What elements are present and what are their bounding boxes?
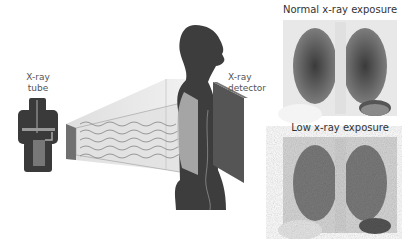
xray-tube-icon (18, 98, 58, 172)
xray-detector-icon (213, 82, 248, 183)
xray-diagram (0, 0, 402, 239)
tube-label-line2: tube (18, 83, 58, 94)
low-exposure-title: Low x-ray exposure (265, 122, 402, 133)
normal-xray-image (278, 20, 397, 124)
detector-label-line2: detector (228, 83, 278, 94)
normal-exposure-title: Normal x-ray exposure (265, 4, 402, 15)
low-xray-image (278, 137, 397, 239)
tube-label-line1: X-ray (18, 72, 58, 83)
xray-detector-label: X-ray detector (228, 72, 278, 94)
xray-tube-label: X-ray tube (18, 72, 58, 94)
detector-label-line1: X-ray (228, 72, 278, 83)
